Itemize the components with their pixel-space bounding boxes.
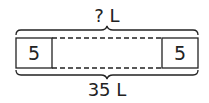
bottom-brace xyxy=(16,70,198,79)
left-segment-value: 5 xyxy=(16,44,52,63)
right-segment-value: 5 xyxy=(162,44,198,63)
top-brace xyxy=(16,26,198,35)
total-unknown-label: ? L xyxy=(77,7,137,25)
total-label: 35 L xyxy=(77,81,137,99)
